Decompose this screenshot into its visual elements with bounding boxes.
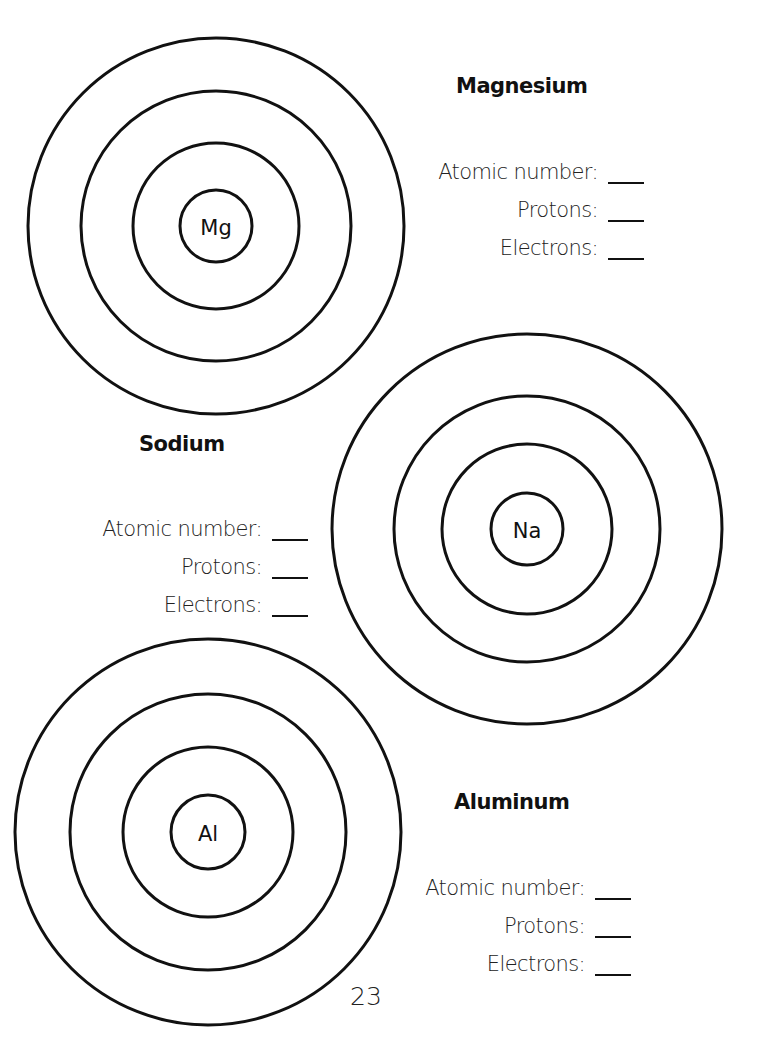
answer-blank[interactable] [608,236,644,260]
field-label: Atomic number: [102,517,262,541]
element-symbol: Mg [200,216,231,240]
atom-magnesium-diagram: Mg [28,38,404,414]
field-atomic-number: Atomic number: [384,146,644,184]
field-label: Electrons: [500,236,598,260]
field-label: Protons: [504,914,585,938]
element-name-sodium: Sodium [139,432,225,456]
field-atomic-number: Atomic number: [371,862,631,900]
field-protons: Protons: [384,184,644,222]
aluminum-fields: Atomic number: Protons: Electrons: [371,862,631,976]
element-symbol: Na [513,519,542,543]
sodium-fields: Atomic number: Protons: Electrons: [48,503,308,617]
answer-blank[interactable] [272,555,308,579]
field-electrons: Electrons: [384,222,644,260]
field-label: Protons: [181,555,262,579]
answer-blank[interactable] [595,952,631,976]
field-label: Electrons: [164,593,262,617]
answer-blank[interactable] [595,876,631,900]
field-label: Protons: [517,198,598,222]
magnesium-fields: Atomic number: Protons: Electrons: [384,146,644,260]
element-name-aluminum: Aluminum [454,790,569,814]
field-protons: Protons: [48,541,308,579]
field-label: Electrons: [487,952,585,976]
answer-blank[interactable] [595,914,631,938]
element-name-magnesium: Magnesium [456,74,587,98]
answer-blank[interactable] [272,593,308,617]
field-protons: Protons: [371,900,631,938]
field-electrons: Electrons: [371,938,631,976]
atom-sodium-diagram: Na [332,334,722,724]
answer-blank[interactable] [608,160,644,184]
answer-blank[interactable] [272,517,308,541]
element-symbol: Al [198,822,218,846]
field-label: Atomic number: [425,876,585,900]
field-atomic-number: Atomic number: [48,503,308,541]
page-number: 23 [350,982,382,1011]
answer-blank[interactable] [608,198,644,222]
field-electrons: Electrons: [48,579,308,617]
atom-aluminum-diagram: Al [15,639,401,1025]
field-label: Atomic number: [438,160,598,184]
